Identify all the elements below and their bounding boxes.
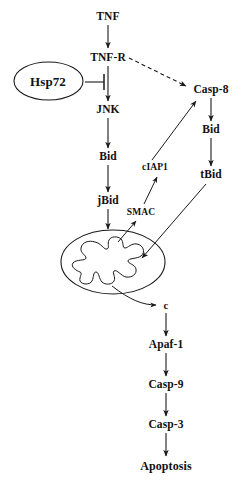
node-tnf: TNF xyxy=(96,11,119,23)
node-smac: SMAC xyxy=(127,208,155,218)
node-casp3: Casp-3 xyxy=(148,419,183,431)
node-bid-left: Bid xyxy=(99,151,117,163)
pathway-diagram: TNF TNF-R Hsp72 JNK Bid jBid Casp-8 Bid … xyxy=(0,0,249,483)
node-ciap1: cIAP1 xyxy=(142,163,168,173)
node-tbid: tBid xyxy=(200,169,222,181)
node-cytochrome-c: c xyxy=(164,301,169,312)
node-jbid: jBid xyxy=(97,195,119,207)
node-casp9: Casp-9 xyxy=(148,379,183,391)
edge-ciap1-to-casp8 xyxy=(152,101,196,160)
node-casp8: Casp-8 xyxy=(193,84,228,96)
edge-mitochondrion-to-cytochrome-c xyxy=(112,286,156,305)
mitochondrion-outer-membrane xyxy=(61,230,165,294)
edge-tnfr-to-casp8-dashed xyxy=(129,58,186,86)
node-bid-right: Bid xyxy=(202,124,220,136)
node-hsp72: Hsp72 xyxy=(30,75,66,88)
edge-smac-to-ciap1 xyxy=(144,177,157,204)
node-apaf1: Apaf-1 xyxy=(149,339,183,351)
node-jnk: JNK xyxy=(96,104,119,116)
pathway-connectors-svg xyxy=(0,0,249,483)
mitochondrion-cristae xyxy=(72,237,143,284)
edge-tbid-to-mitochondrion xyxy=(142,184,206,258)
node-apoptosis: Apoptosis xyxy=(140,460,192,472)
node-tnf-r: TNF-R xyxy=(90,52,126,64)
